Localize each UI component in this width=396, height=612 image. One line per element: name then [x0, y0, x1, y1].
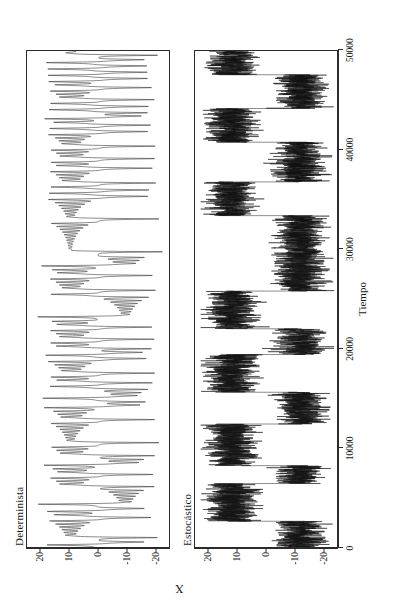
y-tick-label: 0	[93, 552, 103, 557]
x-tick-label: 50000	[345, 38, 355, 62]
y-tick-mark	[40, 548, 41, 552]
y-tick-label: 10	[64, 552, 74, 562]
x-tick-mark	[338, 248, 343, 249]
y-tick-label: -10	[122, 552, 132, 565]
figure-page: Determinista 20100-10-20 Estocástico 201…	[0, 0, 396, 612]
y-tick-label: 20	[203, 552, 213, 562]
y-tick-mark	[208, 548, 209, 552]
y-tick-label: 0	[261, 552, 271, 557]
x-tick-mark	[338, 149, 343, 150]
panel-title-estocastico: Estocástico	[181, 494, 193, 546]
panel-title-determinista: Determinista	[13, 487, 25, 546]
y-tick-mark	[126, 548, 127, 552]
series-line-estocastico	[195, 51, 337, 547]
x-axis-spine	[338, 50, 339, 548]
figure-caption-clipped	[374, 8, 384, 604]
y-tick-mark	[266, 548, 267, 552]
x-axis-label: Tiempo	[356, 50, 368, 548]
panel-determinista	[26, 50, 170, 548]
two-panel-time-series-figure: Determinista 20100-10-20 Estocástico 201…	[12, 8, 384, 604]
x-tick-mark	[338, 547, 343, 548]
y-tick-label: -20	[151, 552, 161, 565]
x-tick-label: 10000	[345, 437, 355, 461]
y-tick-mark	[69, 548, 70, 552]
x-tick-mark	[338, 447, 343, 448]
panel-estocastico	[194, 50, 338, 548]
x-tick-label: 30000	[345, 237, 355, 261]
x-tick-mark	[338, 49, 343, 50]
rotated-figure-stage: Determinista 20100-10-20 Estocástico 201…	[12, 8, 384, 604]
y-axis-label: X	[120, 581, 240, 596]
x-tick-label: 0	[345, 546, 355, 551]
series-line-determinista	[27, 51, 169, 547]
y-tick-mark	[323, 548, 324, 552]
y-tick-mark	[155, 548, 156, 552]
y-axis-determinista: 20100-10-20	[26, 548, 170, 604]
y-tick-label: -10	[290, 552, 300, 565]
x-tick-label: 40000	[345, 138, 355, 162]
y-axis-estocastico: 20100-10-20	[194, 548, 338, 604]
y-tick-mark	[237, 548, 238, 552]
y-tick-mark	[294, 548, 295, 552]
y-tick-label: -20	[319, 552, 329, 565]
y-tick-label: 20	[35, 552, 45, 562]
x-tick-mark	[338, 348, 343, 349]
y-tick-mark	[98, 548, 99, 552]
x-tick-label: 20000	[345, 337, 355, 361]
y-tick-label: 10	[232, 552, 242, 562]
